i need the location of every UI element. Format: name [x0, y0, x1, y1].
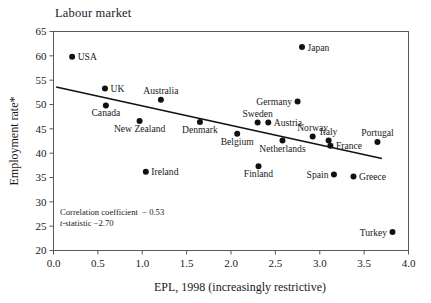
data-point-label: Greece [359, 171, 386, 182]
data-point-label: Japan [308, 42, 330, 53]
correlation-label: Correlation coefficient [60, 207, 138, 217]
y-axis-title: Employment rate* [7, 97, 21, 186]
data-point-label: Portugal [361, 127, 394, 138]
y-tick-label: 20 [36, 244, 48, 256]
data-point[interactable] [327, 143, 333, 149]
x-tick-label: 0.0 [47, 257, 61, 269]
x-tick-label: 4.0 [402, 257, 416, 269]
data-point-label: Belgium [221, 136, 255, 147]
data-point[interactable] [299, 44, 305, 50]
correlation-value: − 0.53 [142, 207, 164, 217]
x-tick-label: 3.5 [357, 257, 371, 269]
data-point[interactable] [158, 97, 164, 103]
data-point-label: Turkey [360, 227, 388, 238]
y-tick-label: 25 [36, 220, 48, 232]
y-axis-ticks: 20253035404550556065 [36, 25, 54, 256]
scatter-plot-canvas: 20253035404550556065 0.00.51.01.52.02.53… [0, 0, 431, 303]
data-point[interactable] [295, 99, 301, 105]
data-point[interactable] [102, 85, 108, 91]
data-point-label: Netherlands [259, 143, 306, 154]
data-point[interactable] [310, 134, 316, 140]
y-tick-label: 60 [36, 50, 48, 62]
data-point-label: Sweden [242, 108, 273, 119]
x-tick-label: 2.0 [224, 257, 238, 269]
data-point[interactable] [69, 54, 75, 60]
data-point-label: Australia [143, 85, 179, 96]
data-point[interactable] [143, 169, 149, 175]
y-tick-label: 35 [36, 171, 48, 183]
data-point-label: Canada [91, 107, 121, 118]
data-point-label: France [336, 140, 362, 151]
y-tick-label: 65 [36, 25, 48, 37]
x-tick-label: 3.0 [313, 257, 327, 269]
data-point[interactable] [265, 120, 271, 126]
data-point[interactable] [331, 172, 337, 178]
x-tick-label: 1.5 [180, 257, 194, 269]
data-point[interactable] [255, 120, 261, 126]
data-point-label: USA [78, 51, 97, 62]
statistics-annotation: Correlation coefficient − 0.53 t-statist… [60, 207, 164, 228]
x-axis-title: EPL, 1998 (increasingly restrictive) [154, 280, 326, 294]
data-point-label: Ireland [151, 166, 178, 177]
data-point-label: New Zealand [114, 123, 166, 134]
trend-line [56, 87, 382, 159]
data-point[interactable] [374, 139, 380, 145]
data-point-label: Germany [256, 96, 292, 107]
data-point-label: UK [110, 83, 124, 94]
data-point-label: Finland [244, 168, 274, 179]
correlation-annotation: Correlation coefficient − 0.53 [60, 207, 164, 217]
y-tick-label: 45 [36, 123, 48, 135]
x-axis-ticks: 0.00.51.01.52.02.53.03.54.0 [47, 251, 416, 269]
y-tick-label: 55 [36, 74, 48, 86]
y-tick-label: 30 [36, 196, 48, 208]
y-tick-label: 50 [36, 98, 48, 110]
x-tick-label: 2.5 [269, 257, 283, 269]
tstatistic-label: -statistic [62, 218, 91, 228]
data-point-label: Italy [320, 126, 338, 137]
x-tick-label: 1.0 [135, 257, 149, 269]
data-point[interactable] [390, 229, 396, 235]
data-point-label: Denmark [182, 124, 218, 135]
data-point[interactable] [350, 174, 356, 180]
data-point-label: Spain [307, 169, 329, 180]
tstatistic-value: −2.70 [94, 218, 114, 228]
chart-figure: Labour market 20253035404550556065 0.00.… [0, 0, 431, 303]
data-point[interactable] [326, 138, 332, 144]
y-tick-label: 40 [36, 147, 48, 159]
x-tick-label: 0.5 [91, 257, 105, 269]
tstatistic-annotation: t-statistic −2.70 [60, 218, 114, 228]
